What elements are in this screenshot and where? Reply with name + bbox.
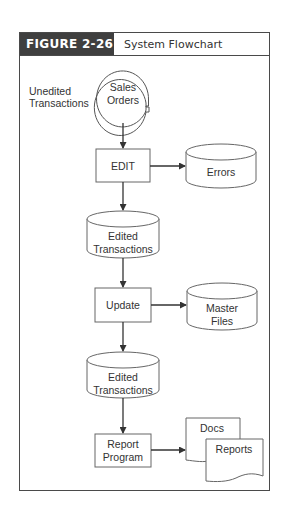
docs-text: Docs — [200, 422, 224, 434]
master-files-disk-node: Master Files — [187, 283, 257, 330]
report-program-text-1: Report — [107, 438, 139, 450]
edited-2-text-2: Transactions — [93, 384, 153, 396]
reports-document-node: Reports — [206, 439, 263, 482]
master-files-text-1: Master — [206, 302, 239, 314]
report-program-process-node: Report Program — [95, 434, 151, 467]
errors-disk-node: Errors — [186, 144, 256, 188]
edit-text: EDIT — [111, 160, 136, 172]
master-files-text-2: Files — [211, 315, 233, 327]
sales-orders-text-1: Sales — [110, 81, 136, 93]
update-text: Update — [106, 299, 140, 311]
errors-text: Errors — [207, 166, 236, 178]
edited-1-text-2: Transactions — [93, 243, 153, 255]
report-program-text-2: Program — [103, 451, 144, 463]
reports-text: Reports — [216, 443, 253, 455]
sales-orders-text-2: Orders — [107, 94, 139, 106]
flowchart-canvas: Sales Orders EDIT Errors Edited Transact… — [0, 0, 288, 519]
edited-1-text-1: Edited — [108, 230, 138, 242]
edited-transactions-disk-1: Edited Transactions — [87, 211, 159, 258]
edited-2-text-1: Edited — [108, 371, 138, 383]
edit-process-node: EDIT — [96, 149, 150, 182]
update-process-node: Update — [95, 288, 151, 322]
sales-orders-node: Sales Orders — [94, 71, 149, 136]
edited-transactions-disk-2: Edited Transactions — [87, 352, 159, 398]
